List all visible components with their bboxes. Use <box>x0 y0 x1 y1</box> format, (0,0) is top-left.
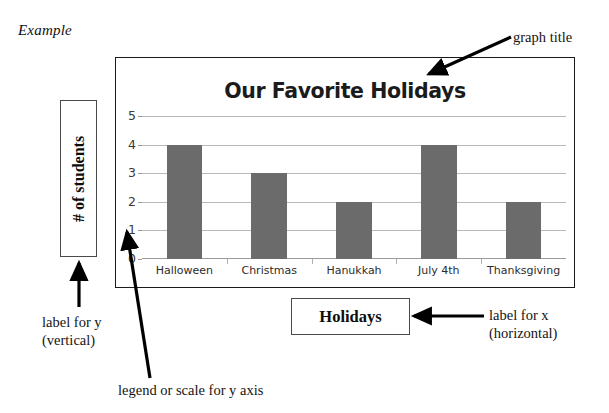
y-axis-label-box: # of students <box>60 100 97 257</box>
bars-layer <box>142 116 566 259</box>
bar-slot <box>396 116 481 259</box>
bar-slot <box>481 116 566 259</box>
bar[interactable] <box>167 145 203 259</box>
x-axis-label: Hanukkah <box>312 264 397 277</box>
bar-slot <box>227 116 312 259</box>
chart-frame: Our Favorite Holidays 012345 HalloweenCh… <box>115 57 575 288</box>
x-tick-mark <box>396 259 397 264</box>
x-axis-label: Christmas <box>227 264 312 277</box>
annotation-label-for-x: label for x (horizontal) <box>489 306 557 342</box>
bar-slot <box>142 116 227 259</box>
x-axis-labels: HalloweenChristmasHanukkahJuly 4thThanks… <box>142 264 566 277</box>
bar[interactable] <box>506 202 542 259</box>
x-axis-label: Halloween <box>142 264 227 277</box>
x-tick-mark <box>227 259 228 264</box>
y-tick-label: 4 <box>128 138 136 151</box>
annotation-graph-title: graph title <box>513 28 572 46</box>
x-axis-label: July 4th <box>396 264 481 277</box>
plot-area: 012345 <box>142 116 566 259</box>
chart-title: Our Favorite Holidays <box>116 79 574 103</box>
annotation-label-for-y: label for y (vertical) <box>42 313 102 349</box>
x-axis-label: Thanksgiving <box>481 264 566 277</box>
bar[interactable] <box>336 202 372 259</box>
bar-slot <box>312 116 397 259</box>
y-tick-label: 5 <box>128 110 136 123</box>
y-tick-label: 2 <box>128 196 136 209</box>
x-axis-label-text: Holidays <box>319 307 381 327</box>
example-caption: Example <box>18 22 72 39</box>
annotation-legend-for-y-axis: legend or scale for y axis <box>118 381 263 399</box>
y-tick-label: 0 <box>128 253 136 266</box>
x-axis-label-box: Holidays <box>291 298 410 335</box>
y-axis-label-text: # of students <box>70 135 88 221</box>
bar[interactable] <box>251 173 287 259</box>
bar[interactable] <box>421 145 457 259</box>
x-tick-mark <box>481 259 482 264</box>
y-tick-label: 1 <box>128 224 136 237</box>
y-tick-mark <box>138 259 142 260</box>
y-tick-label: 3 <box>128 167 136 180</box>
x-tick-mark <box>312 259 313 264</box>
